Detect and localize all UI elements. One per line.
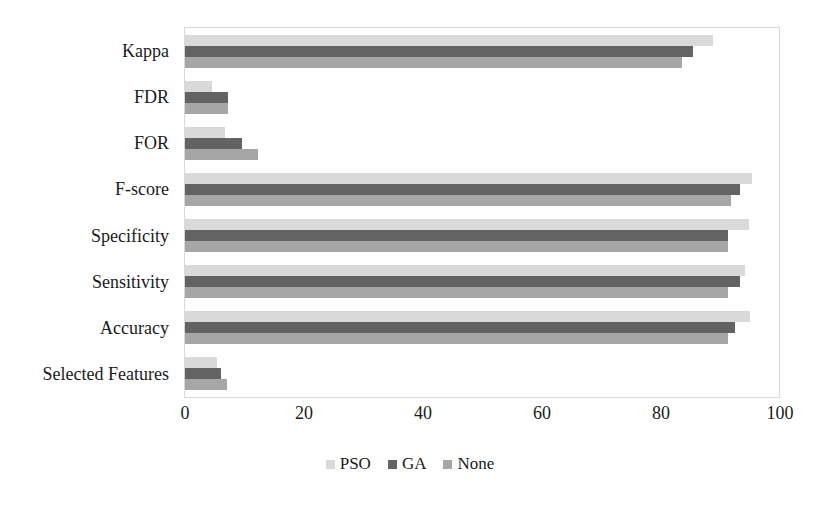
bar-ga-sensitivity [185,276,740,287]
bar-group-specificity [185,219,780,252]
x-tick-label: 80 [652,404,670,422]
bar-pso-for [185,127,225,138]
y-axis-label: Accuracy [0,305,178,351]
bar-group [185,351,780,397]
legend-swatch-icon [326,460,335,469]
bar-group-f-score [185,173,780,206]
chart-legend: PSOGANone [0,455,820,472]
bar-none-fdr [185,103,228,114]
legend-swatch-icon [388,460,397,469]
y-axis-category-labels: KappaFDRFORF-scoreSpecificitySensitivity… [0,28,178,397]
bar-group-accuracy [185,311,780,344]
y-axis-label: F-score [0,166,178,212]
bar-group [185,28,780,74]
bar-none-f-score [185,195,731,206]
x-tick-label: 60 [533,404,551,422]
legend-label: None [457,455,494,472]
y-axis-label: Kappa [0,28,178,74]
bar-group-sensitivity [185,265,780,298]
bar-group [185,305,780,351]
bar-none-sensitivity [185,287,728,298]
bar-ga-specificity [185,230,728,241]
bar-group [185,213,780,259]
bar-pso-selected-features [185,357,217,368]
x-tick-label: 100 [767,404,794,422]
bar-group-fdr [185,81,780,114]
bar-groups-container [185,28,780,397]
legend-label: PSO [340,455,371,472]
legend-item-ga[interactable]: GA [388,455,427,472]
y-axis-label: Sensitivity [0,259,178,305]
bar-none-specificity [185,241,728,252]
legend-label: GA [402,455,427,472]
bar-none-accuracy [185,333,728,344]
y-axis-label: FDR [0,74,178,120]
bar-ga-kappa [185,46,693,57]
bar-group [185,166,780,212]
bar-none-for [185,149,258,160]
bar-pso-f-score [185,173,752,184]
bar-pso-sensitivity [185,265,745,276]
x-tick-label: 0 [181,404,190,422]
legend-item-pso[interactable]: PSO [326,455,371,472]
bar-ga-f-score [185,184,740,195]
legend-swatch-icon [443,460,452,469]
x-tick-label: 40 [414,404,432,422]
bar-pso-specificity [185,219,749,230]
y-axis-label: Specificity [0,213,178,259]
y-axis-label: Selected Features [0,351,178,397]
bar-group [185,259,780,305]
bar-pso-accuracy [185,311,750,322]
bar-pso-kappa [185,35,713,46]
bar-ga-selected-features [185,368,221,379]
bar-group [185,120,780,166]
bar-group-for [185,127,780,160]
bar-none-kappa [185,57,682,68]
bar-group-selected-features [185,357,780,390]
bar-group [185,74,780,120]
x-axis-tick-labels: 020406080100 [185,404,780,430]
bar-ga-fdr [185,92,228,103]
bar-group-kappa [185,35,780,68]
legend-item-none[interactable]: None [443,455,494,472]
bar-ga-for [185,138,242,149]
x-tick-label: 20 [295,404,313,422]
y-axis-label: FOR [0,120,178,166]
bar-pso-fdr [185,81,212,92]
bar-ga-accuracy [185,322,735,333]
bar-chart: KappaFDRFORF-scoreSpecificitySensitivity… [0,0,820,508]
bar-none-selected-features [185,379,227,390]
